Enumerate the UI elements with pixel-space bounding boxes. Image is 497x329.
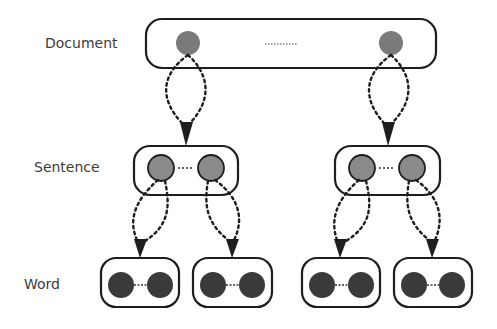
arrows-sentence-to-word bbox=[133, 180, 439, 241]
word-node bbox=[239, 272, 265, 298]
word-node bbox=[108, 272, 134, 298]
arrowhead-icon bbox=[226, 239, 239, 258]
sentence-node bbox=[349, 155, 375, 181]
arrowhead-icon bbox=[134, 239, 147, 258]
hierarchy-diagram bbox=[0, 0, 497, 329]
word-container-1 bbox=[101, 258, 179, 307]
word-node bbox=[348, 272, 374, 298]
word-node bbox=[309, 272, 335, 298]
arrowhead-icon bbox=[426, 239, 439, 258]
document-node-2 bbox=[379, 31, 403, 55]
arrow-document-to-sentence-2 bbox=[369, 55, 408, 123]
document-node-1 bbox=[176, 31, 200, 55]
arrowhead-icon bbox=[180, 122, 193, 146]
arrowhead-icon bbox=[334, 239, 347, 258]
word-container-2 bbox=[193, 258, 272, 307]
arrowhead-icon bbox=[382, 122, 395, 146]
word-container-4 bbox=[394, 258, 472, 307]
word-node bbox=[147, 272, 173, 298]
arrow-document-to-sentence-1 bbox=[166, 55, 205, 123]
sentence-node bbox=[198, 155, 224, 181]
document-container bbox=[146, 19, 436, 68]
sentence-node bbox=[148, 155, 174, 181]
word-node bbox=[439, 272, 465, 298]
sentence-node bbox=[399, 155, 425, 181]
word-node bbox=[401, 272, 427, 298]
word-node bbox=[200, 272, 226, 298]
word-container-3 bbox=[302, 258, 380, 307]
